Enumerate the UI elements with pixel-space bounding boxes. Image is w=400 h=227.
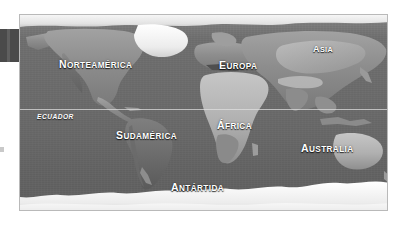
label-asia-initial: A [313,44,320,54]
label-australia-rest: USTRALIA [309,145,354,154]
figure-page: ECUADOR NORTEAMÉRICA EUROPA ASIA SUDAMÉR… [0,0,400,227]
label-norteamerica-rest: ORTEAMÉRICA [67,61,132,70]
land-new-zealand [384,171,387,183]
label-africa: ÁFRICA [217,116,252,132]
page-bottom-margin [0,212,400,227]
label-asia: ASIA [313,39,333,55]
label-asia-rest: SIA [320,45,333,54]
land-indonesia [320,117,372,126]
label-antartida-initial: A [171,181,179,193]
world-map-canvas: ECUADOR NORTEAMÉRICA EUROPA ASIA SUDAMÉR… [20,15,387,210]
arctic-ice [20,15,387,27]
page-edge-mark [0,147,4,152]
land-southeast-asia [315,96,336,113]
label-europa-rest: UROPA [226,62,257,71]
label-australia: AUSTRALIA [301,139,354,155]
label-norteamerica: NORTEAMÉRICA [59,55,132,71]
equator-label: ECUADOR [37,113,74,120]
label-australia-initial: A [301,142,309,154]
label-sudamerica: SUDAMÉRICA [116,126,177,142]
label-africa-rest: FRICA [225,122,252,131]
page-edge-tab-notch [7,29,10,62]
world-map: ECUADOR NORTEAMÉRICA EUROPA ASIA SUDAMÉR… [19,14,388,211]
label-africa-initial: Á [217,119,225,131]
land-madagascar [252,143,258,156]
label-norteamerica-initial: N [59,58,67,70]
label-europa: EUROPA [219,56,257,72]
equator-line [20,109,387,110]
label-sudamerica-rest: UDAMÉRICA [123,132,177,141]
land-central-america [97,97,133,123]
label-antartida-rest: NTÁRTIDA [179,184,224,193]
page-edge-tab [0,29,19,62]
label-antartida: ANTÁRTIDA [171,178,224,194]
